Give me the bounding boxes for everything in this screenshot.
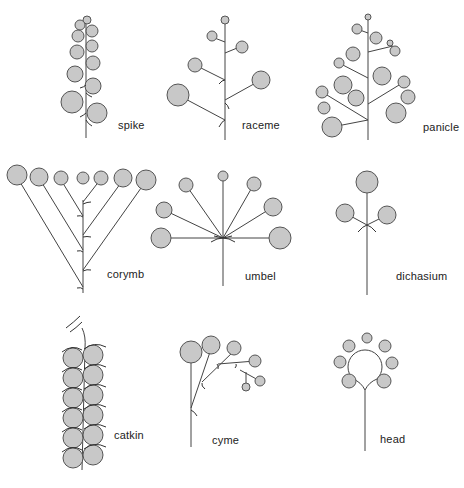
- panicle-diagram: [316, 14, 415, 140]
- spike-diagram: [61, 16, 107, 138]
- label-umbel: umbel: [245, 270, 276, 282]
- label-catkin: catkin: [114, 429, 144, 441]
- dichasium-diagram: [336, 171, 396, 295]
- label-raceme: raceme: [242, 119, 280, 131]
- label-cyme: cyme: [212, 434, 239, 446]
- label-spike: spike: [118, 119, 145, 131]
- label-head: head: [380, 433, 405, 445]
- catkin-diagram: [62, 316, 106, 470]
- cyme-diagram: [180, 336, 265, 447]
- umbel-diagram: [151, 171, 291, 286]
- label-panicle: panicle: [423, 121, 459, 133]
- label-corymb: corymb: [107, 268, 144, 280]
- inflorescence-diagram: [0, 0, 464, 488]
- label-dichasium: dichasium: [396, 270, 447, 282]
